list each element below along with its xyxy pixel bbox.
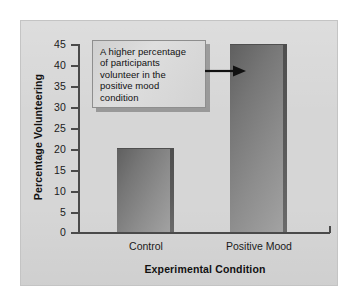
y-axis-line [78,44,80,233]
figure-canvas: 45 40 35 30 25 20 15 10 5 0 Control [0,0,358,307]
y-tick-5 [71,212,78,214]
bar-positive-mood-shadow-edge [283,44,287,232]
x-axis-title: Experimental Condition [79,263,331,275]
y-tick-20 [71,149,78,151]
y-tick-40 [71,65,78,67]
bar-positive-mood-top-edge [230,44,287,45]
bar-control[interactable] [117,148,174,232]
y-tick-45 [71,44,78,46]
annotation-arrow-icon [205,64,247,78]
y-tick-0 [71,232,78,234]
x-axis-line [78,232,330,234]
y-tick-30 [71,107,78,109]
y-tick-10 [71,191,78,193]
bar-control-shadow-edge [170,148,174,232]
bar-control-top-edge [117,148,174,149]
annotation-callout-box: A higher percentage of participants volu… [92,40,206,108]
y-tick-25 [71,128,78,130]
y-tick-35 [71,86,78,88]
x-axis-end-cap [329,226,331,233]
x-tick-label-control: Control [105,241,187,252]
y-axis-title: Percentage Volunteering [32,42,44,232]
y-tick-15 [71,170,78,172]
plot-area: 45 40 35 30 25 20 15 10 5 0 Control [0,0,358,307]
annotation-callout-text: A higher percentage of participants volu… [100,46,199,103]
x-tick-label-positive-mood: Positive Mood [213,241,305,252]
